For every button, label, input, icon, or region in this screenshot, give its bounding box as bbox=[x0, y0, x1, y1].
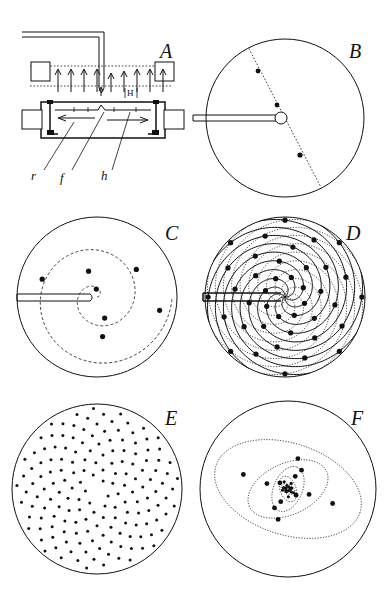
droplet bbox=[276, 314, 281, 319]
droplet bbox=[302, 301, 307, 306]
droplet bbox=[274, 344, 279, 349]
panel-a: H bbox=[22, 32, 184, 185]
droplet bbox=[287, 495, 290, 498]
droplet bbox=[84, 550, 87, 553]
droplet bbox=[33, 451, 36, 454]
droplet bbox=[102, 453, 105, 456]
ellipse-family-f bbox=[202, 422, 374, 556]
droplet bbox=[30, 467, 33, 470]
droplet bbox=[109, 439, 112, 442]
droplet bbox=[103, 505, 106, 508]
droplet bbox=[123, 449, 126, 452]
droplet bbox=[51, 536, 54, 539]
droplet bbox=[165, 497, 168, 500]
droplet bbox=[311, 237, 316, 242]
droplet bbox=[66, 497, 69, 500]
droplet bbox=[40, 517, 43, 520]
part-label-h: h bbox=[101, 168, 108, 183]
droplet bbox=[43, 549, 46, 552]
droplet bbox=[146, 448, 149, 451]
droplet bbox=[282, 218, 287, 223]
droplet bbox=[287, 486, 290, 489]
droplet bbox=[173, 505, 176, 508]
droplet bbox=[169, 461, 172, 464]
droplets-e bbox=[15, 407, 179, 570]
panel-b: B bbox=[193, 39, 364, 197]
droplet bbox=[76, 413, 79, 416]
droplet bbox=[61, 422, 64, 425]
droplet bbox=[154, 469, 157, 472]
panel-label-c: C bbox=[165, 222, 179, 244]
panel-label-a: A bbox=[158, 40, 173, 62]
droplet bbox=[145, 438, 148, 441]
droplet bbox=[135, 523, 138, 526]
droplet bbox=[39, 527, 42, 530]
droplet bbox=[157, 308, 162, 313]
droplet bbox=[25, 491, 28, 494]
droplet bbox=[141, 547, 144, 550]
droplet bbox=[149, 478, 152, 481]
droplet bbox=[39, 475, 42, 478]
droplet bbox=[63, 530, 66, 533]
droplet bbox=[136, 500, 139, 503]
panel-label-b: B bbox=[349, 40, 361, 62]
droplet bbox=[131, 491, 134, 494]
droplet bbox=[301, 285, 306, 290]
droplet bbox=[253, 273, 258, 278]
droplet bbox=[51, 525, 54, 528]
droplet bbox=[242, 324, 247, 329]
droplet bbox=[123, 484, 126, 487]
droplet bbox=[65, 541, 68, 544]
figure-root: H bbox=[0, 0, 386, 594]
droplet bbox=[343, 275, 348, 280]
droplet bbox=[289, 275, 294, 280]
droplet bbox=[74, 521, 77, 524]
droplet bbox=[100, 334, 105, 339]
droplet bbox=[114, 506, 117, 509]
droplet bbox=[102, 315, 107, 320]
droplet bbox=[146, 496, 149, 499]
droplet bbox=[83, 458, 86, 461]
feed-needle-c bbox=[17, 294, 92, 301]
droplet bbox=[145, 459, 148, 462]
droplet bbox=[164, 513, 167, 516]
droplet bbox=[155, 519, 158, 522]
droplet bbox=[68, 509, 71, 512]
panel-label-f: F bbox=[350, 407, 364, 429]
droplet bbox=[60, 556, 63, 559]
droplet bbox=[264, 304, 269, 309]
disc-outline-e bbox=[12, 404, 182, 574]
field-label-H: H bbox=[127, 88, 134, 98]
droplet bbox=[61, 434, 64, 437]
droplet bbox=[20, 501, 23, 504]
droplet bbox=[222, 314, 227, 319]
droplet bbox=[102, 563, 105, 566]
field-arrows bbox=[55, 69, 166, 92]
droplet bbox=[134, 267, 139, 272]
droplet bbox=[273, 276, 278, 281]
droplet bbox=[86, 417, 89, 420]
droplet bbox=[109, 526, 112, 529]
droplet bbox=[241, 472, 246, 477]
droplet bbox=[339, 323, 344, 328]
droplet bbox=[290, 490, 293, 493]
droplet bbox=[330, 501, 335, 506]
figure-canvas: H bbox=[0, 0, 386, 594]
droplet bbox=[278, 499, 283, 504]
droplet bbox=[139, 535, 142, 538]
droplet bbox=[79, 481, 82, 484]
droplet bbox=[71, 486, 74, 489]
droplets-f bbox=[241, 456, 335, 522]
droplet bbox=[134, 452, 137, 455]
droplet bbox=[130, 547, 133, 550]
droplet bbox=[39, 461, 42, 464]
droplet bbox=[147, 509, 150, 512]
panel-label-d: D bbox=[345, 222, 361, 244]
droplet bbox=[102, 534, 105, 537]
droplet bbox=[63, 520, 66, 523]
droplet bbox=[337, 349, 342, 354]
cell-stem-right bbox=[164, 110, 184, 129]
droplet bbox=[40, 538, 43, 541]
droplet bbox=[337, 240, 342, 245]
droplet bbox=[72, 436, 75, 439]
